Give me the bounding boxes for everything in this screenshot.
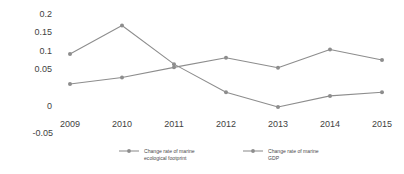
data-point-marker (276, 105, 280, 109)
y-tick-label-0.1: 0.1 (39, 46, 52, 56)
legend-label-footprint-line1: Change rate of marine (144, 148, 195, 154)
x-tick-label-2010: 2010 (112, 119, 132, 129)
y-tick-label-0.2: 0.2 (39, 9, 52, 19)
legend-label-footprint-line2: ecological footprint (144, 155, 187, 161)
legend-label-gdp-line1: Change rate of marine (268, 148, 319, 154)
data-point-marker (328, 94, 332, 98)
legend-marker-icon-footprint (127, 149, 131, 153)
legend-entry-marine-gdp[interactable]: Change rate of marine GDP (243, 148, 319, 162)
data-point-marker (120, 24, 124, 28)
x-tick-label-2011: 2011 (164, 119, 183, 129)
x-tick-label-2013: 2013 (268, 119, 288, 129)
legend-entry-ecological-footprint[interactable]: Change rate of marine ecological footpri… (119, 148, 195, 162)
data-point-marker (68, 52, 72, 56)
chart-legend: Change rate of marine ecological footpri… (119, 148, 319, 162)
legend-label-gdp-line2: GDP (268, 155, 280, 161)
x-tick-label-2009: 2009 (60, 119, 80, 129)
series-line-path (70, 26, 382, 107)
data-series-layer (68, 24, 384, 109)
line-chart-figure: 0.2 0.15 0.1 0.05 0 -0.05 2009 2010 2011… (0, 0, 404, 174)
data-point-marker (328, 47, 332, 51)
data-point-marker (224, 90, 228, 94)
data-point-marker (380, 90, 384, 94)
series-marine-gdp (68, 47, 384, 86)
y-tick-label-0.05: 0.05 (34, 64, 52, 74)
chart-canvas: 0.2 0.15 0.1 0.05 0 -0.05 2009 2010 2011… (0, 0, 404, 174)
x-tick-label-2015: 2015 (372, 119, 392, 129)
y-tick-label-0.15: 0.15 (34, 27, 52, 37)
y-axis-tick-labels: 0.2 0.15 0.1 0.05 0 -0.05 (32, 9, 53, 138)
y-tick-label--0.05: -0.05 (32, 128, 53, 138)
x-tick-label-2012: 2012 (216, 119, 236, 129)
data-point-marker (224, 56, 228, 60)
x-axis-tick-labels: 2009 2010 2011 2012 2013 2014 2015 (60, 119, 392, 129)
legend-marker-icon-gdp (251, 149, 255, 153)
series-ecological-footprint (68, 24, 384, 109)
data-point-marker (276, 66, 280, 70)
series-line-path (70, 49, 382, 84)
data-point-marker (380, 58, 384, 62)
data-point-marker (120, 75, 124, 79)
data-point-marker (172, 65, 176, 69)
data-point-marker (68, 82, 72, 86)
x-tick-label-2014: 2014 (320, 119, 340, 129)
y-tick-label-0: 0 (47, 101, 52, 111)
